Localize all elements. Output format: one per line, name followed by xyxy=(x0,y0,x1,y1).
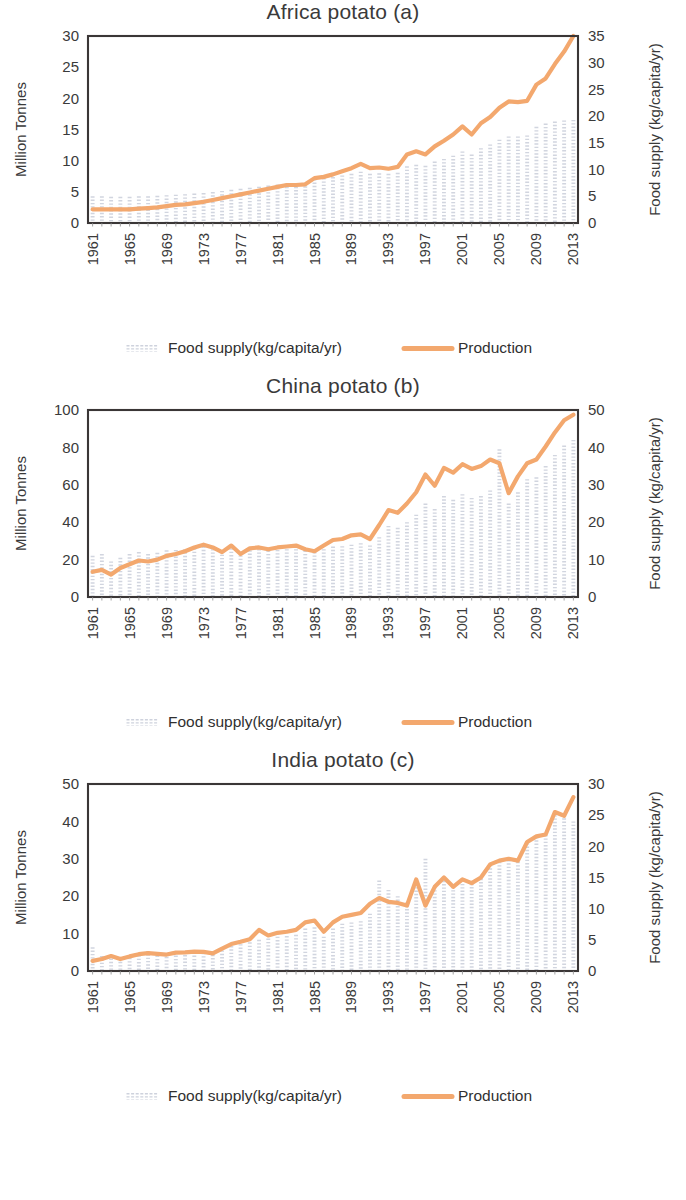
y-right-tick-label: 20 xyxy=(588,513,605,530)
y-right-tick-label: 5 xyxy=(588,187,596,204)
y-right-tick-label: 35 xyxy=(588,27,605,44)
y-left-tick-label: 100 xyxy=(54,401,79,418)
legend-label-production: Production xyxy=(458,339,532,356)
x-tick-label: 1969 xyxy=(159,233,175,265)
figure-page: Africa potato (a) 0510152025300510152025… xyxy=(0,0,686,1200)
x-tick-label: 1993 xyxy=(380,981,396,1013)
food-supply-bars xyxy=(93,815,574,971)
x-tick-label: 2005 xyxy=(491,233,507,265)
x-tick-label: 1985 xyxy=(307,981,323,1013)
y-right-tick-label: 10 xyxy=(588,551,605,568)
x-tick-label: 1977 xyxy=(233,607,249,639)
x-tick-label: 1981 xyxy=(270,607,286,639)
y-left-tick-label: 80 xyxy=(62,439,79,456)
x-tick-label: 2009 xyxy=(528,981,544,1013)
x-tick-label: 2001 xyxy=(454,233,470,265)
y-right-tick-label: 40 xyxy=(588,439,605,456)
x-tick-label: 2001 xyxy=(454,607,470,639)
x-tick-label: 1985 xyxy=(307,233,323,265)
y-left-axis-title: Million Tonnes xyxy=(12,456,29,551)
y-right-tick-label: 20 xyxy=(588,838,605,855)
y-right-tick-label: 15 xyxy=(588,134,605,151)
y-right-tick-label: 15 xyxy=(588,869,605,886)
y-right-tick-label: 50 xyxy=(588,401,605,418)
x-tick-label: 2005 xyxy=(491,607,507,639)
x-tick-label: 1973 xyxy=(196,607,212,639)
x-tick-label: 1985 xyxy=(307,607,323,639)
x-tick-label: 2009 xyxy=(528,233,544,265)
y-left-tick-label: 25 xyxy=(62,58,79,75)
y-left-axis-title: Million Tonnes xyxy=(12,82,29,177)
y-right-tick-label: 30 xyxy=(588,775,605,792)
y-left-tick-label: 10 xyxy=(62,925,79,942)
x-tick-label: 1981 xyxy=(270,233,286,265)
x-tick-label: 1981 xyxy=(270,981,286,1013)
y-left-tick-label: 30 xyxy=(62,27,79,44)
x-tick-label: 1997 xyxy=(417,233,433,265)
x-tick-label: 1973 xyxy=(196,233,212,265)
x-tick-label: 2001 xyxy=(454,981,470,1013)
y-right-tick-label: 30 xyxy=(588,54,605,71)
y-left-tick-label: 30 xyxy=(62,850,79,867)
x-tick-label: 2013 xyxy=(565,981,581,1013)
x-tick-label: 1977 xyxy=(233,981,249,1013)
y-right-tick-label: 25 xyxy=(588,806,605,823)
x-tick-label: 2009 xyxy=(528,607,544,639)
x-tick-label: 1993 xyxy=(380,233,396,265)
chart-panel-china: China potato (b) 02040608010001020304050… xyxy=(0,374,686,748)
y-left-tick-label: 0 xyxy=(71,588,79,605)
chart-panel-india: India potato (c) 01020304050051015202530… xyxy=(0,748,686,1122)
x-tick-label: 1989 xyxy=(343,981,359,1013)
y-right-axis-title: Food supply (kg/capita/yr) xyxy=(646,417,663,590)
y-left-tick-label: 50 xyxy=(62,775,79,792)
x-tick-label: 1977 xyxy=(233,233,249,265)
y-right-tick-label: 10 xyxy=(588,161,605,178)
chart-svg-africa: 0510152025300510152025303519611965196919… xyxy=(0,24,686,374)
x-tick-label: 2013 xyxy=(565,607,581,639)
plot-area-africa: 0510152025300510152025303519611965196919… xyxy=(0,24,686,374)
x-tick-label: 1997 xyxy=(417,607,433,639)
legend-label-food-supply: Food supply(kg/capita/yr) xyxy=(168,1087,342,1104)
y-right-axis-title: Food supply (kg/capita/yr) xyxy=(646,791,663,964)
y-right-tick-label: 0 xyxy=(588,214,596,231)
x-tick-label: 2013 xyxy=(565,233,581,265)
y-left-tick-label: 10 xyxy=(62,152,79,169)
y-left-tick-label: 15 xyxy=(62,121,79,138)
x-tick-label: 1969 xyxy=(159,981,175,1013)
y-left-tick-label: 40 xyxy=(62,513,79,530)
x-tick-label: 1965 xyxy=(122,607,138,639)
y-left-tick-label: 20 xyxy=(62,551,79,568)
y-right-tick-label: 30 xyxy=(588,476,605,493)
y-right-tick-label: 25 xyxy=(588,81,605,98)
chart-legend: Food supply(kg/capita/yr)Production xyxy=(128,339,532,356)
x-tick-label: 2005 xyxy=(491,981,507,1013)
y-left-tick-label: 5 xyxy=(71,183,79,200)
x-tick-label: 1989 xyxy=(343,607,359,639)
chart-title-africa: Africa potato (a) xyxy=(0,0,686,24)
y-right-tick-label: 10 xyxy=(588,900,605,917)
y-right-tick-label: 0 xyxy=(588,962,596,979)
chart-title-china: China potato (b) xyxy=(0,374,686,398)
x-tick-label: 1969 xyxy=(159,607,175,639)
x-tick-label: 1993 xyxy=(380,607,396,639)
chart-legend: Food supply(kg/capita/yr)Production xyxy=(128,713,532,730)
legend-label-production: Production xyxy=(458,713,532,730)
y-left-tick-label: 0 xyxy=(71,214,79,231)
y-left-tick-label: 20 xyxy=(62,90,79,107)
x-tick-label: 1961 xyxy=(85,981,101,1013)
y-left-axis-title: Million Tonnes xyxy=(12,830,29,925)
y-right-tick-label: 5 xyxy=(588,931,596,948)
chart-legend: Food supply(kg/capita/yr)Production xyxy=(128,1087,532,1104)
y-right-tick-label: 0 xyxy=(588,588,596,605)
y-right-axis-title: Food supply (kg/capita/yr) xyxy=(646,43,663,216)
y-left-tick-label: 0 xyxy=(71,962,79,979)
y-left-tick-label: 40 xyxy=(62,813,79,830)
y-right-tick-label: 20 xyxy=(588,107,605,124)
x-tick-label: 1973 xyxy=(196,981,212,1013)
chart-panel-africa: Africa potato (a) 0510152025300510152025… xyxy=(0,0,686,374)
y-left-tick-label: 60 xyxy=(62,476,79,493)
legend-label-food-supply: Food supply(kg/capita/yr) xyxy=(168,713,342,730)
plot-area-india: 0102030405005101520253019611965196919731… xyxy=(0,772,686,1122)
legend-label-production: Production xyxy=(458,1087,532,1104)
x-tick-label: 1965 xyxy=(122,233,138,265)
